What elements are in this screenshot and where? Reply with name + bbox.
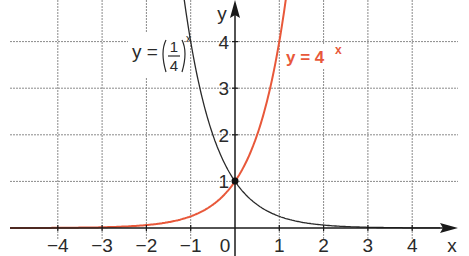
exponential-chart: −4−3−2−1012341234 y x y = 4 x y = 1 4 x (0, 0, 469, 256)
x-tick-label: 0 (220, 235, 231, 256)
intersection-point (232, 178, 239, 185)
x-tick-label: 1 (274, 235, 285, 256)
grid-lines (10, 0, 458, 240)
y-tick-label: 2 (218, 125, 229, 146)
x-tick-label: 2 (318, 235, 329, 256)
tick-labels: −4−3−2−1012341234 (47, 32, 418, 256)
y-axis-label: y (217, 3, 227, 24)
legend-black-curve: y = 1 4 x (128, 32, 191, 78)
y-tick-label: 4 (218, 32, 229, 53)
x-tick-label: 3 (363, 235, 374, 256)
legend-red-curve: y = 4 x (282, 43, 344, 68)
x-tick-label: −4 (47, 235, 69, 256)
x-tick-label: −1 (180, 235, 202, 256)
fraction-numerator: 1 (170, 38, 178, 55)
fraction-denominator: 4 (170, 57, 178, 74)
black-curve-label-prefix: y = (132, 41, 158, 62)
red-curve-exponent: x (335, 43, 342, 57)
black-curve-exponent: x (186, 33, 191, 44)
y-tick-label: 3 (218, 78, 229, 99)
y-tick-label: 1 (218, 171, 229, 192)
axes (10, 0, 458, 256)
x-tick-label: −3 (91, 235, 113, 256)
x-tick-label: −2 (136, 235, 158, 256)
x-axis-label: x (447, 235, 457, 256)
red-curve-label: y = 4 (286, 48, 325, 67)
x-tick-label: 4 (407, 235, 418, 256)
